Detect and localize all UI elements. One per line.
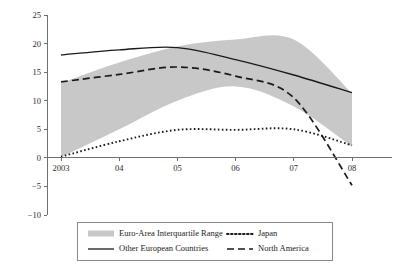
y-tick-label: 0 bbox=[37, 153, 41, 163]
band-layer bbox=[61, 35, 352, 157]
series-band-euro-area-interquartile-range bbox=[61, 35, 352, 157]
y-tick-label: −5 bbox=[32, 181, 41, 191]
x-tick-label: 05 bbox=[173, 163, 182, 173]
legend-item-euro-area-interquartile-range[interactable]: Euro-Area Interquartile Range bbox=[88, 228, 223, 238]
legend-label-euro-area-interquartile-range: Euro-Area Interquartile Range bbox=[119, 228, 223, 238]
legend-swatch-band bbox=[88, 231, 114, 237]
legend-item-other-european-countries[interactable]: Other European Countries bbox=[88, 243, 208, 253]
x-tick-label: 07 bbox=[290, 163, 299, 173]
x-tick-label: 2003 bbox=[53, 163, 70, 173]
y-tick-label: 10 bbox=[33, 96, 42, 106]
y-tick-label: −10 bbox=[28, 210, 41, 220]
y-tick-label: 20 bbox=[33, 39, 42, 49]
y-tick-label: 15 bbox=[33, 67, 42, 77]
legend-item-north-america[interactable]: North America bbox=[227, 243, 309, 253]
x-tick-label: 08 bbox=[348, 163, 357, 173]
legend-item-japan[interactable]: Japan bbox=[227, 228, 278, 238]
y-tick-label: 5 bbox=[37, 124, 41, 134]
legend-label-japan: Japan bbox=[258, 228, 278, 238]
legend-label-other-european-countries: Other European Countries bbox=[119, 243, 208, 253]
chart-container: 2520151050−5−1020030405060708Euro-Area I… bbox=[0, 0, 403, 280]
legend-label-north-america: North America bbox=[258, 243, 309, 253]
y-tick-label: 25 bbox=[33, 10, 42, 20]
x-tick-label: 06 bbox=[231, 163, 240, 173]
chart-legend: Euro-Area Interquartile RangeJapanOther … bbox=[78, 223, 333, 261]
x-tick-label: 04 bbox=[115, 163, 124, 173]
line-chart: 2520151050−5−1020030405060708Euro-Area I… bbox=[0, 0, 403, 280]
